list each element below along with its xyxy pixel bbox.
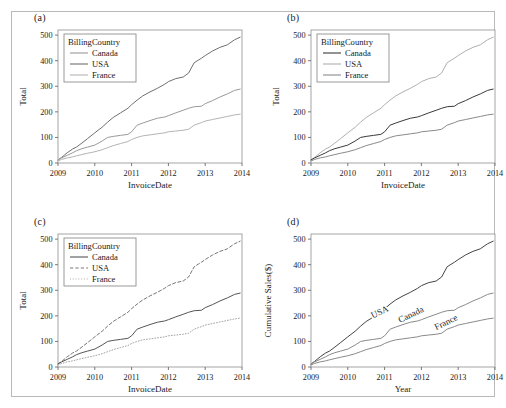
- svg-text:2012: 2012: [413, 169, 429, 178]
- svg-text:Total: Total: [18, 87, 28, 106]
- svg-text:200: 200: [293, 108, 305, 117]
- svg-text:InvoiceDate: InvoiceDate: [128, 180, 172, 190]
- svg-text:Total: Total: [271, 87, 281, 106]
- svg-text:0: 0: [48, 363, 52, 372]
- svg-text:BillingCountry: BillingCountry: [68, 37, 121, 47]
- figure-container: (a) 010020030040050020092010201120122013…: [0, 0, 506, 408]
- svg-text:Canada: Canada: [92, 252, 118, 262]
- svg-text:USA: USA: [345, 59, 363, 69]
- svg-text:500: 500: [40, 235, 52, 244]
- svg-text:400: 400: [293, 57, 305, 66]
- svg-text:2011: 2011: [124, 373, 140, 382]
- svg-text:2013: 2013: [197, 169, 213, 178]
- svg-text:400: 400: [293, 261, 305, 270]
- svg-text:2009: 2009: [303, 373, 319, 382]
- svg-text:0: 0: [301, 159, 305, 168]
- svg-text:USA: USA: [92, 263, 110, 273]
- svg-text:500: 500: [293, 235, 305, 244]
- svg-text:2009: 2009: [50, 373, 66, 382]
- svg-text:200: 200: [40, 108, 52, 117]
- svg-text:InvoiceDate: InvoiceDate: [128, 384, 172, 394]
- svg-text:2010: 2010: [340, 373, 356, 382]
- svg-text:2010: 2010: [340, 169, 356, 178]
- svg-text:2012: 2012: [160, 169, 176, 178]
- svg-text:100: 100: [40, 337, 52, 346]
- svg-text:400: 400: [40, 57, 52, 66]
- svg-text:2009: 2009: [303, 169, 319, 178]
- svg-text:500: 500: [293, 31, 305, 40]
- svg-text:France: France: [345, 70, 369, 80]
- svg-text:2009: 2009: [50, 169, 66, 178]
- svg-text:2013: 2013: [450, 169, 466, 178]
- svg-text:100: 100: [40, 133, 52, 142]
- svg-text:100: 100: [293, 133, 305, 142]
- svg-text:2014: 2014: [487, 169, 503, 178]
- svg-text:2011: 2011: [377, 169, 393, 178]
- panel-a: (a) 010020030040050020092010201120122013…: [0, 0, 253, 204]
- svg-text:Year: Year: [395, 384, 412, 394]
- svg-text:2010: 2010: [87, 373, 103, 382]
- svg-text:200: 200: [40, 312, 52, 321]
- svg-text:0: 0: [48, 159, 52, 168]
- svg-text:2010: 2010: [87, 169, 103, 178]
- svg-text:2013: 2013: [450, 373, 466, 382]
- svg-text:300: 300: [40, 286, 52, 295]
- svg-text:2013: 2013: [197, 373, 213, 382]
- svg-text:France: France: [92, 70, 116, 80]
- svg-text:2011: 2011: [377, 373, 393, 382]
- svg-text:2012: 2012: [160, 373, 176, 382]
- svg-text:0: 0: [301, 363, 305, 372]
- svg-text:400: 400: [40, 261, 52, 270]
- svg-text:2011: 2011: [124, 169, 140, 178]
- svg-text:2014: 2014: [234, 169, 250, 178]
- svg-text:BillingCountry: BillingCountry: [321, 37, 374, 47]
- panel-b: (b) 010020030040050020092010201120122013…: [253, 0, 506, 204]
- svg-text:Cumulative Sales($): Cumulative Sales($): [263, 264, 273, 338]
- svg-text:2014: 2014: [487, 373, 503, 382]
- svg-text:2014: 2014: [234, 373, 250, 382]
- svg-text:500: 500: [40, 31, 52, 40]
- svg-text:InvoiceDate: InvoiceDate: [381, 180, 425, 190]
- svg-text:Canada: Canada: [92, 48, 118, 58]
- svg-text:BillingCountry: BillingCountry: [68, 241, 121, 251]
- svg-text:USA: USA: [92, 59, 110, 69]
- svg-text:2012: 2012: [413, 373, 429, 382]
- svg-text:100: 100: [293, 337, 305, 346]
- panel-c: (c) 010020030040050020092010201120122013…: [0, 204, 253, 408]
- svg-text:200: 200: [293, 312, 305, 321]
- svg-text:300: 300: [293, 286, 305, 295]
- panel-d: (d) 010020030040050020092010201120122013…: [253, 204, 506, 408]
- svg-text:Canada: Canada: [345, 48, 371, 58]
- svg-text:300: 300: [40, 82, 52, 91]
- svg-text:Total: Total: [18, 291, 28, 310]
- svg-text:300: 300: [293, 82, 305, 91]
- svg-text:France: France: [92, 274, 116, 284]
